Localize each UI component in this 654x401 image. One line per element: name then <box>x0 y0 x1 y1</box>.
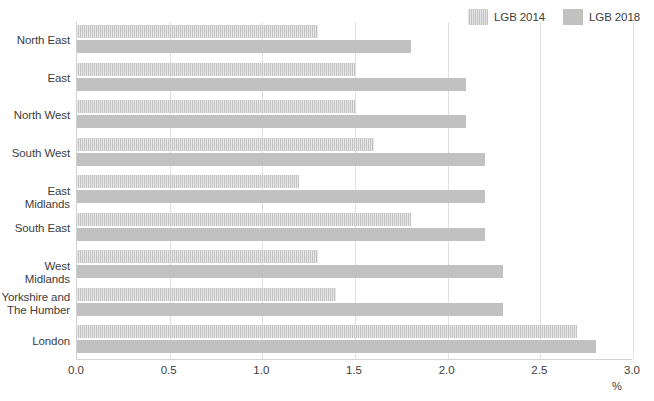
x-axis-tick: 2.0 <box>439 364 455 376</box>
bar-group <box>77 322 632 360</box>
bar-group <box>77 135 632 173</box>
bar-lgb-2014 <box>77 250 318 263</box>
y-axis-label: South West <box>0 147 70 160</box>
bar-group <box>77 247 632 285</box>
bar-lgb-2014 <box>77 288 336 301</box>
bar-lgb-2018 <box>77 190 485 203</box>
x-axis-title: % <box>612 380 622 392</box>
y-axis-label: North East <box>0 34 70 47</box>
x-axis-labels: 0.00.51.01.52.02.53.0 <box>76 364 632 380</box>
bar-lgb-2014 <box>77 25 318 38</box>
bar-lgb-2018 <box>77 115 466 128</box>
x-axis-tick: 1.0 <box>253 364 269 376</box>
bar-group <box>77 210 632 248</box>
bar-lgb-2018 <box>77 265 503 278</box>
bar-lgb-2014 <box>77 325 577 338</box>
bar-lgb-2018 <box>77 340 596 353</box>
bar-group <box>77 60 632 98</box>
bar-lgb-2014 <box>77 63 355 76</box>
x-axis-tick: 2.5 <box>531 364 547 376</box>
bar-chart: LGB 2014 LGB 2018 North EastEastNorth We… <box>0 0 654 401</box>
bar-rows <box>77 22 632 359</box>
bar-group <box>77 97 632 135</box>
gridline-3.0 <box>633 22 634 359</box>
bar-group <box>77 172 632 210</box>
bar-lgb-2018 <box>77 303 503 316</box>
bar-lgb-2018 <box>77 228 485 241</box>
bar-lgb-2018 <box>77 40 411 53</box>
y-axis-label: North West <box>0 109 70 122</box>
bar-group <box>77 285 632 323</box>
bar-lgb-2014 <box>77 213 411 226</box>
x-axis-tick: 0.5 <box>161 364 177 376</box>
y-axis-label: Yorkshire andThe Humber <box>0 291 70 317</box>
bar-lgb-2018 <box>77 78 466 91</box>
x-axis-tick: 1.5 <box>346 364 362 376</box>
bar-lgb-2014 <box>77 138 374 151</box>
plot-area <box>76 22 632 360</box>
y-axis-label: London <box>0 335 70 348</box>
y-axis-label: East <box>0 72 70 85</box>
y-axis-label: East Midlands <box>0 185 70 211</box>
bar-lgb-2018 <box>77 153 485 166</box>
y-axis-labels: North EastEastNorth WestSouth WestEast M… <box>0 22 70 360</box>
bar-group <box>77 22 632 60</box>
bar-lgb-2014 <box>77 100 355 113</box>
y-axis-label: South East <box>0 222 70 235</box>
x-axis-tick: 3.0 <box>624 364 640 376</box>
y-axis-label: West Midlands <box>0 260 70 286</box>
bar-lgb-2014 <box>77 175 299 188</box>
x-axis-tick: 0.0 <box>68 364 84 376</box>
